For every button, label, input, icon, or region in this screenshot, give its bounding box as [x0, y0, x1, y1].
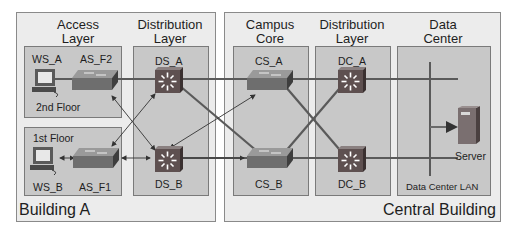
ws-a-label: WS_A: [32, 53, 62, 65]
multilayer-switch-icon[interactable]: [338, 67, 366, 93]
switch-icon[interactable]: [247, 70, 293, 94]
workstation-icon[interactable]: [30, 146, 58, 176]
multilayer-switch-icon[interactable]: [338, 146, 366, 172]
server-label: Server: [455, 150, 486, 162]
server-icon[interactable]: [458, 106, 480, 146]
dc-lan-label: Data Center LAN: [406, 181, 478, 192]
as-f2-label: AS_F2: [80, 53, 112, 65]
cs-a-label: CS_A: [255, 55, 282, 67]
as-f1-label: AS_F1: [79, 181, 111, 193]
multilayer-switch-icon[interactable]: [155, 67, 183, 93]
switch-icon[interactable]: [247, 148, 293, 172]
central-building-name: Central Building: [383, 201, 496, 219]
workstation-icon[interactable]: [32, 68, 60, 98]
switch-icon[interactable]: [72, 70, 118, 94]
ds-b-label: DS_B: [155, 178, 182, 190]
floor2-label: 2nd Floor: [36, 101, 80, 113]
cs-b-label: CS_B: [255, 178, 282, 190]
ws-b-label: WS_B: [33, 181, 63, 193]
ds-a-label: DS_A: [155, 55, 182, 67]
floor1-label: 1st Floor: [33, 132, 74, 144]
dc-a-label: DC_A: [338, 55, 366, 67]
building-a-name: Building A: [19, 201, 90, 219]
dc-b-label: DC_B: [338, 178, 366, 190]
switch-icon[interactable]: [73, 148, 119, 172]
multilayer-switch-icon[interactable]: [155, 146, 183, 172]
